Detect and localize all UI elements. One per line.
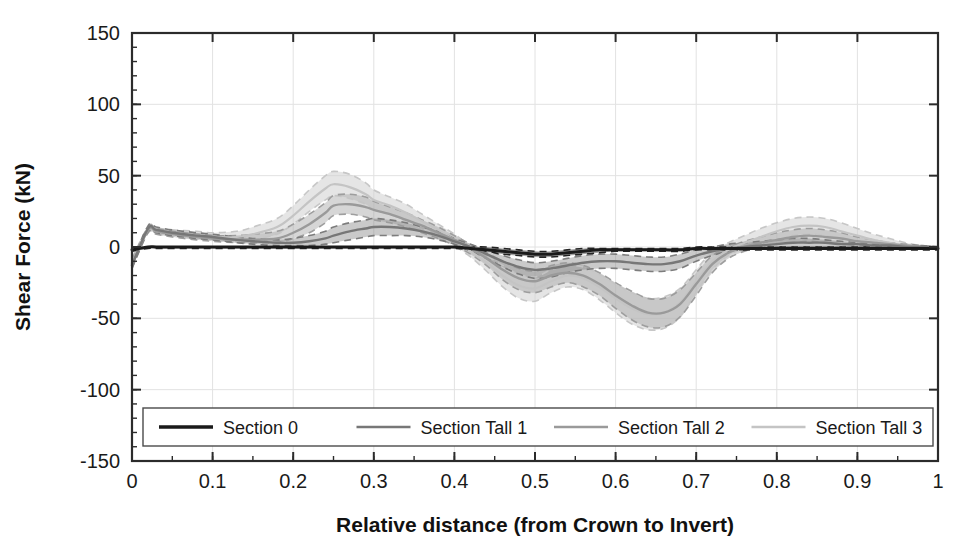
x-tick-label: 0.4 — [440, 470, 468, 492]
x-tick-label: 0.8 — [763, 470, 791, 492]
x-tick-label: 1 — [932, 470, 943, 492]
x-tick-label: 0.9 — [843, 470, 871, 492]
x-tick-label: 0.1 — [199, 470, 227, 492]
y-tick-label: 0 — [109, 236, 120, 258]
legend-label-section-0: Section 0 — [223, 418, 298, 438]
x-tick-label: 0.6 — [602, 470, 630, 492]
legend-label-section-tall-3: Section Tall 3 — [816, 418, 923, 438]
x-tick-label: 0.7 — [682, 470, 710, 492]
x-tick-label: 0.5 — [521, 470, 549, 492]
y-axis-title: Shear Force (kN) — [11, 163, 34, 331]
x-tick-label: 0.3 — [360, 470, 388, 492]
y-tick-label: -150 — [80, 450, 120, 472]
chart-container: 00.10.20.30.40.50.60.70.80.91 150100500-… — [0, 0, 979, 547]
y-tick-label: 150 — [87, 22, 120, 44]
y-tick-label: 50 — [98, 165, 120, 187]
shear-force-chart: 00.10.20.30.40.50.60.70.80.91 150100500-… — [0, 0, 979, 547]
x-tick-label: 0 — [126, 470, 137, 492]
legend-label-section-tall-1: Section Tall 1 — [421, 418, 528, 438]
x-axis-title: Relative distance (from Crown to Invert) — [336, 513, 734, 536]
y-tick-label: -50 — [91, 307, 120, 329]
y-tick-label: 100 — [87, 93, 120, 115]
x-tick-label: 0.2 — [279, 470, 307, 492]
legend-label-section-tall-2: Section Tall 2 — [618, 418, 725, 438]
chart-legend: Section 0Section Tall 1Section Tall 2Sec… — [143, 408, 933, 446]
y-tick-label: -100 — [80, 379, 120, 401]
